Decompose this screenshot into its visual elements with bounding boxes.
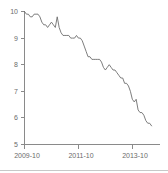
line-chart-figure: 10 9 8 7 6 5 2009-10 2011-10 2013-10 [0,0,168,173]
x-tick-label-2013-10: 2013-10 [122,152,148,159]
chart-plot-area: 10 9 8 7 6 5 2009-10 2011-10 2013-10 [0,0,168,173]
y-tick-label-6: 6 [14,114,18,121]
data-series-line [25,12,152,126]
x-tick-label-2011-10: 2011-10 [68,152,93,159]
x-tick-label-2009-10: 2009-10 [14,152,40,159]
y-tick-label-8: 8 [14,61,18,68]
y-tick-label-9: 9 [14,35,18,42]
y-tick-label-10: 10 [10,8,18,15]
y-tick-label-7: 7 [14,88,18,95]
x-tick-marks [25,145,133,149]
y-tick-label-5: 5 [14,141,18,148]
bottom-divider [0,170,168,171]
y-tick-marks [21,12,25,145]
